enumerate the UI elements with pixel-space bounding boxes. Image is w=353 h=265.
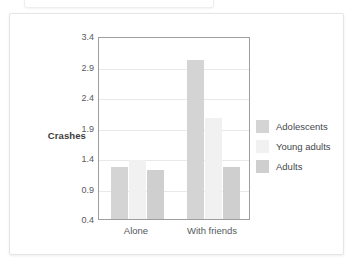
gridline — [99, 99, 249, 100]
bar — [223, 167, 240, 219]
chart-legend: AdolescentsYoung adultsAdults — [256, 118, 331, 178]
gridline — [99, 69, 249, 70]
y-axis-tick-label: 1.9 — [70, 124, 94, 134]
chart-card: Crashes 3.42.92.41.91.40.90.4 AloneWith … — [9, 13, 344, 255]
legend-item-label: Adolescents — [276, 121, 328, 132]
legend-swatch-icon — [256, 120, 269, 133]
plot-area — [98, 37, 250, 220]
bar — [147, 170, 164, 219]
y-axis-tick-label: 2.4 — [70, 93, 94, 103]
gridline — [99, 130, 249, 131]
legend-item[interactable]: Adults — [256, 158, 331, 175]
y-axis-tick-label: 0.9 — [70, 185, 94, 195]
legend-swatch-icon — [256, 160, 269, 173]
legend-swatch-icon — [256, 140, 269, 153]
legend-item[interactable]: Adolescents — [256, 118, 331, 135]
legend-item[interactable]: Young adults — [256, 138, 331, 155]
y-axis-tick-label: 3.4 — [70, 32, 94, 42]
y-axis-tick-label: 1.4 — [70, 154, 94, 164]
top-cutoff-artifact — [24, 0, 214, 8]
legend-item-label: Young adults — [276, 141, 331, 152]
bar — [205, 118, 222, 219]
bar — [111, 167, 128, 219]
x-axis-tick-label: With friends — [187, 225, 237, 236]
y-axis-tick-labels: 3.42.92.41.91.40.90.4 — [68, 37, 94, 220]
bar — [129, 160, 146, 219]
gridline — [99, 160, 249, 161]
bar — [187, 60, 204, 219]
y-axis-tick-label: 2.9 — [70, 63, 94, 73]
x-axis-tick-label: Alone — [124, 225, 148, 236]
legend-item-label: Adults — [276, 161, 302, 172]
y-axis-tick-label: 0.4 — [70, 215, 94, 225]
